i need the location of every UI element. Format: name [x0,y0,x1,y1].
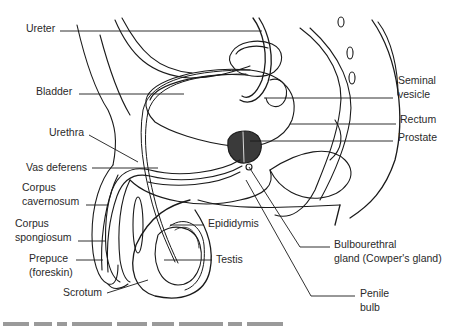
label-corpus-cavernosum-line2: cavernosum [22,195,79,208]
label-seminal-vesicle-line2: vesicle [398,88,430,101]
testis [155,227,201,285]
label-bulbourethral-line1: Bulbourethral [334,238,396,251]
abdominal-wall [77,25,115,165]
leader-urethra [89,135,138,162]
leader-scrotum [107,280,148,293]
label-prepuce-line2: (foreskin) [29,266,73,279]
label-penile-bulb-line2: bulb [360,301,380,314]
label-scrotum: Scrotum [63,286,102,299]
label-testis: Testis [216,253,243,266]
bladder-outline [146,69,294,146]
label-prostate: Prostate [398,131,437,144]
label-bladder: Bladder [36,85,72,98]
vas-deferens [141,70,250,262]
label-seminal-vesicle-line1: Seminal [398,74,436,87]
figure-caption-cutoff [0,319,330,326]
label-vas-deferens: Vas deferens [26,161,87,174]
label-rectum: Rectum [400,113,436,126]
corpus-spongiosum-shape [133,197,143,253]
label-prepuce-line1: Prepuce [29,252,68,265]
label-corpus-spongiosum-line1: Corpus [15,217,49,230]
sacrum-coccyx [350,20,400,218]
prostate [228,131,261,163]
label-epididymis: Epididymis [208,217,259,230]
label-corpus-cavernosum-line1: Corpus [22,181,56,194]
label-bulbourethral-line2: gland (Cowper's gland) [334,252,442,265]
label-urethra: Urethra [49,126,84,139]
label-corpus-spongiosum-line2: spongiosum [15,231,72,244]
label-ureter: Ureter [26,22,55,35]
label-penile-bulb-line1: Penile [360,287,389,300]
ureter [242,18,265,97]
